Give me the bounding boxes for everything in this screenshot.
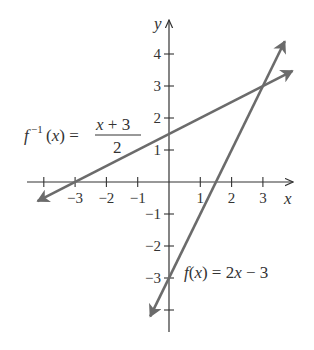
- f-equation: f(x) = 2x − 3: [184, 263, 268, 282]
- x-tick-label: −2: [98, 190, 114, 206]
- x-axis-label: x: [283, 189, 292, 208]
- x-tick-label: −1: [130, 190, 146, 206]
- x-tick-label: 3: [259, 190, 267, 206]
- finv-argument: (x) =: [46, 126, 79, 145]
- y-tick-label: 4: [154, 46, 162, 62]
- y-axis-ticks: −3−2−11234: [145, 46, 174, 310]
- inverse-function-label: f −1 (x) = x + 3 2: [24, 115, 141, 157]
- y-axis-label: y: [152, 14, 162, 33]
- finv-superscript: −1: [31, 123, 43, 135]
- finv-f: f: [24, 126, 31, 145]
- finv-denominator: 2: [113, 138, 122, 157]
- x-tick-label: 1: [197, 190, 205, 206]
- x-tick-label: 2: [228, 190, 236, 206]
- y-tick-label: −3: [145, 270, 161, 286]
- function-label: f(x) = 2x − 3: [184, 263, 268, 282]
- y-tick-label: 3: [154, 78, 162, 94]
- finv-numerator: x + 3: [95, 115, 130, 134]
- y-tick-label: −1: [145, 206, 161, 222]
- x-tick-label: −3: [67, 190, 83, 206]
- y-tick-label: 2: [154, 110, 162, 126]
- y-tick-label: −2: [145, 238, 161, 254]
- y-tick-label: 1: [154, 142, 162, 158]
- function-inverse-graph: −3−2−1123 −3−2−11234 x y f −1 (x) = x + …: [0, 0, 314, 350]
